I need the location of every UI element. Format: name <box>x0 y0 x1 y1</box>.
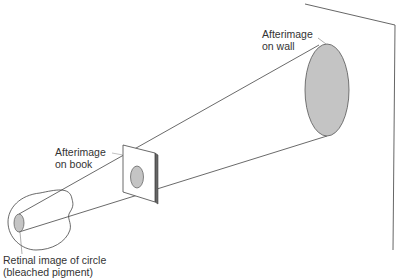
retinal-image-ellipse <box>14 214 24 232</box>
wall-label: Afterimage on wall <box>262 28 313 52</box>
wall-label-leader <box>318 38 326 44</box>
book-label-leader <box>112 153 123 155</box>
book-label: Afterimage on book <box>55 146 106 170</box>
wall-afterimage-ellipse <box>305 44 349 136</box>
book-afterimage-ellipse <box>131 166 144 188</box>
book <box>123 145 158 204</box>
retina-label: Retinal image of circle (bleached pigmen… <box>3 254 106 278</box>
retina-label-leader <box>20 232 22 254</box>
projection-lines <box>19 45 327 232</box>
